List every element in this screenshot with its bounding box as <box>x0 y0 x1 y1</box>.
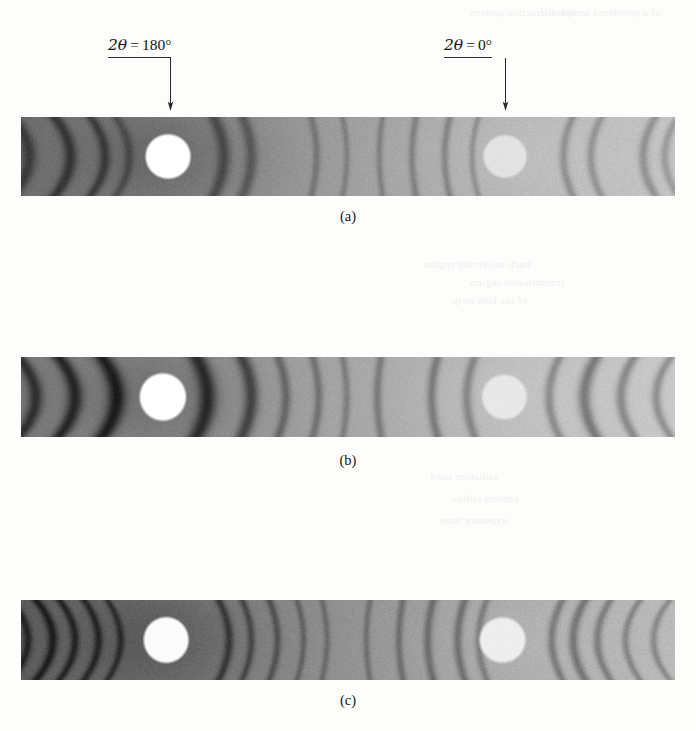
film-strip-c <box>21 600 675 680</box>
ghost-text: radiation used <box>430 470 498 482</box>
angle-equals-left: = <box>127 36 142 53</box>
film-strip-a <box>21 117 675 196</box>
ghost-text: of the film strip <box>452 294 528 306</box>
angle-value-left: 180° <box>142 36 171 53</box>
ghost-text: back-reflection region <box>424 258 530 270</box>
pointer-arrow-0-icon <box>500 58 511 112</box>
angle-label-row: 2θ=180° 2θ=0° <box>0 0 696 117</box>
figure-caption-b: (b) <box>0 452 696 469</box>
ghost-text: camera radius <box>452 492 519 504</box>
pointer-arrow-180-icon <box>165 58 176 112</box>
angle-symbol-right: 2θ <box>444 36 463 54</box>
film-strip-b-image <box>21 357 675 437</box>
figure-caption-a: (a) <box>0 208 696 225</box>
angle-label-0: 2θ=0° <box>444 36 492 58</box>
film-strip-c-image <box>21 600 675 680</box>
angle-symbol-left: 2θ <box>108 36 127 54</box>
figure-caption-c: (c) <box>0 692 696 709</box>
angle-equals-right: = <box>463 36 478 53</box>
document-page: the diffraction patternof a powdered sam… <box>0 0 696 731</box>
angle-value-right: 0° <box>478 36 492 53</box>
ghost-text: exposure time <box>440 514 507 526</box>
ghost-text: transmission region <box>470 276 564 288</box>
film-strip-b <box>21 357 675 437</box>
angle-label-180: 2θ=180° <box>108 36 171 58</box>
film-strip-a-image <box>21 117 675 196</box>
